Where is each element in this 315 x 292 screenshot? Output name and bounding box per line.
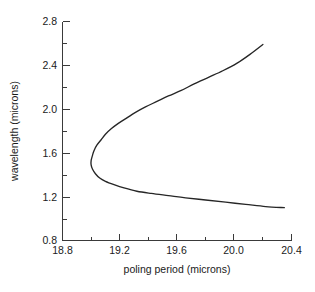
- y-tick-labels: 2.8 2.4 2.0 1.6 1.2 0.8: [42, 15, 57, 246]
- y-axis-ticks: [63, 22, 70, 241]
- x-tick-label: 18.8: [52, 244, 73, 256]
- y-tick-label: 2.4: [42, 59, 57, 71]
- y-tick-label: 1.2: [42, 191, 57, 203]
- x-tick-label: 19.2: [109, 244, 130, 256]
- y-tick-label: 1.6: [42, 147, 57, 159]
- tuning-curve-line: [91, 45, 284, 208]
- y-tick-label: 2.0: [42, 103, 57, 115]
- x-tick-label: 20.0: [223, 244, 244, 256]
- x-tick-label: 19.6: [166, 244, 187, 256]
- tuning-curve-plot: 2.8 2.4 2.0 1.6 1.2 0.8 18.8 19.2 19.6 2…: [0, 0, 315, 292]
- x-axis-ticks: [63, 234, 292, 241]
- chart-figure: 2.8 2.4 2.0 1.6 1.2 0.8 18.8 19.2 19.6 2…: [0, 0, 315, 292]
- y-tick-label: 2.8: [42, 15, 57, 27]
- y-axis-title: wavelength (microns): [8, 81, 20, 182]
- x-axis-title: poling period (microns): [124, 263, 231, 275]
- plot-axes: [63, 22, 292, 241]
- x-tick-label: 20.4: [281, 244, 302, 256]
- x-tick-labels: 18.8 19.2 19.6 20.0 20.4: [52, 244, 302, 256]
